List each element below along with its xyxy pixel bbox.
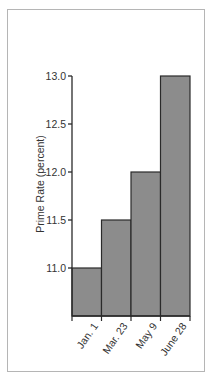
bar-may-9 bbox=[131, 172, 161, 316]
y-axis: 11.011.512.012.513.0 bbox=[46, 70, 72, 317]
y-tick-label: 12.5 bbox=[46, 118, 67, 130]
x-tick-label: June 28 bbox=[157, 320, 188, 358]
y-tick-label: 11.0 bbox=[46, 262, 66, 274]
x-tick-label: Jan. 1 bbox=[74, 320, 100, 350]
x-tick-label: May 9 bbox=[133, 320, 159, 350]
y-axis-title: Prime Rate (percent) bbox=[34, 135, 46, 232]
bar-june-28 bbox=[161, 76, 191, 316]
prime-rate-bar-chart: 11.011.512.012.513.0 Jan. 1Mar. 23May 9J… bbox=[0, 0, 209, 379]
y-tick-label: 11.5 bbox=[46, 214, 66, 226]
x-tick-label: Mar. 23 bbox=[100, 320, 130, 356]
bar-jan-1 bbox=[72, 268, 102, 316]
x-axis: Jan. 1Mar. 23May 9June 28 bbox=[72, 316, 190, 358]
y-tick-label: 13.0 bbox=[46, 70, 67, 82]
bars-group bbox=[72, 76, 190, 316]
bar-mar-23 bbox=[102, 220, 132, 316]
y-tick-label: 12.0 bbox=[46, 166, 67, 178]
